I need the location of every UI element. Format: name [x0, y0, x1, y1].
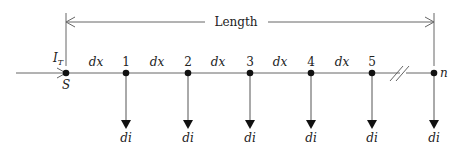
node-label: 2: [184, 55, 192, 69]
source-node-label: S: [62, 78, 70, 92]
node-label: 4: [307, 55, 315, 69]
source-node: [63, 70, 70, 77]
load-node: 4 di: [305, 55, 317, 145]
drop-label: di: [428, 131, 440, 145]
down-arrow-icon: [245, 120, 255, 129]
segment-label: dx: [273, 55, 288, 69]
load-node: 3 di: [244, 55, 256, 145]
drop-label: di: [305, 131, 317, 145]
drop-label: di: [244, 131, 256, 145]
segment-label: dx: [335, 55, 350, 69]
load-node: 5 di: [366, 55, 378, 145]
distributed-load-diagram: Length IT S dx dx dx dx dx 1 di 2 di 3: [0, 0, 459, 149]
segment-label: dx: [150, 55, 165, 69]
node-label: 1: [122, 55, 130, 69]
length-label: Length: [214, 15, 257, 29]
load-node: 2 di: [182, 55, 194, 145]
load-node: 1 di: [120, 55, 132, 145]
down-arrow-icon: [429, 120, 439, 129]
node-label: 3: [246, 55, 254, 69]
down-arrow-icon: [367, 120, 377, 129]
drop-label: di: [120, 131, 132, 145]
down-arrow-icon: [183, 120, 193, 129]
load-node: n di: [428, 66, 448, 145]
source-current-label: IT: [52, 51, 64, 67]
node-label: 5: [368, 55, 376, 69]
node-label: n: [440, 66, 448, 80]
down-arrow-icon: [306, 120, 316, 129]
drop-label: di: [366, 131, 378, 145]
segment-label: dx: [89, 55, 104, 69]
segment-label: dx: [211, 55, 226, 69]
down-arrow-icon: [121, 120, 131, 129]
drop-label: di: [182, 131, 194, 145]
